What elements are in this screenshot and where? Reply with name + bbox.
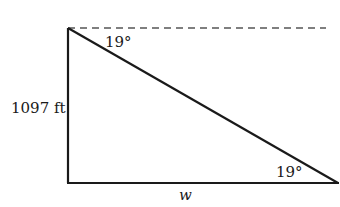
hypotenuse [68, 28, 338, 183]
bottom-angle-label: 19° [276, 163, 303, 181]
height-label: 1097 ft [11, 99, 66, 117]
triangle-diagram: 19° 19° 1097 ft w [0, 0, 340, 207]
base-label: w [179, 186, 192, 204]
top-angle-label: 19° [105, 33, 132, 51]
